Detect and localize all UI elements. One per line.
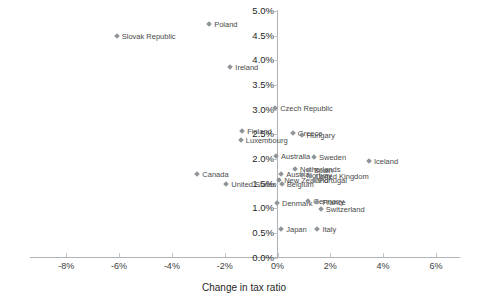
data-point-label: Canada	[202, 171, 228, 179]
y-tick-label: 0.0%	[247, 252, 274, 263]
x-tick-mark	[66, 253, 67, 257]
data-point-marker	[238, 137, 244, 143]
data-point-label: Slovak Republic	[122, 33, 176, 41]
x-tick-label: 2%	[310, 261, 350, 271]
x-tick-mark	[383, 253, 384, 257]
y-tick-label: 4.5%	[247, 30, 274, 41]
y-tick-label: 5.0%	[247, 5, 274, 16]
data-point-label: Poland	[214, 21, 237, 29]
y-tick-label: 3.0%	[247, 104, 274, 115]
data-point: Sweden	[312, 154, 346, 162]
x-tick-label: 0%	[258, 261, 298, 271]
data-point: Luxembourg	[239, 137, 288, 145]
data-point-marker	[318, 206, 324, 212]
data-point-label: Portugal	[319, 177, 347, 185]
data-point-marker	[206, 21, 212, 27]
data-point-label: Italy	[322, 226, 336, 234]
y-tick-mark	[274, 258, 278, 259]
data-point: Belgium	[280, 181, 314, 189]
y-tick-mark	[274, 11, 278, 12]
data-point-marker	[315, 199, 321, 205]
data-point: Hungary	[300, 132, 335, 140]
y-tick-mark	[274, 233, 278, 234]
x-axis-line	[30, 257, 460, 258]
data-point-marker	[114, 33, 120, 39]
x-tick-label: -6%	[99, 261, 139, 271]
x-tick-mark	[172, 253, 173, 257]
data-point-marker	[305, 198, 311, 204]
data-point: Japan	[279, 226, 306, 234]
data-point: Iceland	[367, 158, 398, 166]
y-tick-label: 3.5%	[247, 79, 274, 90]
data-point-label: Ireland	[235, 64, 258, 72]
data-point: Finland	[240, 128, 272, 136]
y-tick-label: 0.5%	[247, 227, 274, 238]
x-tick-label: -2%	[205, 261, 245, 271]
data-point-marker	[227, 64, 233, 70]
data-point: Italy	[315, 226, 336, 234]
data-point-label: Belgium	[287, 181, 314, 189]
x-tick-mark	[119, 253, 120, 257]
data-point-label: Finland	[247, 128, 272, 136]
scatter-chart: -8%-6%-4%-2%0%2%4%6% 0.0%0.5%1.0%1.5%2.0…	[0, 0, 488, 306]
x-tick-mark	[278, 253, 279, 257]
y-tick-label: 2.0%	[247, 153, 274, 164]
data-point-marker	[239, 128, 245, 134]
data-point: Ireland	[228, 64, 258, 72]
y-tick-mark	[274, 60, 278, 61]
data-point-marker	[315, 227, 321, 233]
data-point-label: Switzerland	[326, 206, 365, 214]
data-point-label: Iceland	[374, 158, 398, 166]
data-point: Poland	[207, 21, 237, 29]
data-point-label: Czech Republic	[280, 105, 333, 113]
plot-area: -8%-6%-4%-2%0%2%4%6% 0.0%0.5%1.0%1.5%2.0…	[0, 0, 488, 306]
x-tick-label: 4%	[363, 261, 403, 271]
data-point-marker	[273, 154, 279, 160]
x-tick-mark	[225, 253, 226, 257]
y-tick-mark	[274, 208, 278, 209]
data-point-marker	[223, 181, 229, 187]
data-point: Switzerland	[319, 206, 365, 214]
data-point-label: Sweden	[319, 154, 346, 162]
data-point-label: Luxembourg	[246, 137, 288, 145]
data-point-marker	[299, 132, 305, 138]
data-point: Portugal	[312, 177, 347, 185]
data-point-marker	[290, 130, 296, 136]
y-tick-mark	[274, 36, 278, 37]
data-point-marker	[311, 155, 317, 161]
data-point: Czech Republic	[273, 105, 333, 113]
data-point-marker	[194, 171, 200, 177]
data-point-marker	[366, 159, 372, 165]
x-tick-mark	[436, 253, 437, 257]
data-point-label: United States	[231, 181, 276, 189]
data-point: Australia	[274, 153, 310, 161]
y-tick-mark	[274, 134, 278, 135]
x-tick-label: -8%	[46, 261, 86, 271]
y-tick-label: 1.0%	[247, 202, 274, 213]
data-point-label: Japan	[286, 226, 306, 234]
x-tick-label: 6%	[416, 261, 456, 271]
data-point-marker	[278, 227, 284, 233]
data-point-label: Australia	[281, 153, 310, 161]
data-point-marker	[279, 181, 285, 187]
data-point: Slovak Republic	[115, 33, 176, 41]
data-point: Canada	[195, 171, 228, 179]
data-point-marker	[272, 105, 278, 111]
y-tick-mark	[274, 85, 278, 86]
x-axis-title: Change in tax ratio	[0, 282, 488, 293]
x-tick-label: -4%	[152, 261, 192, 271]
data-point: United States	[224, 181, 276, 189]
data-point-marker	[274, 200, 280, 206]
data-point-label: Hungary	[307, 132, 335, 140]
x-tick-mark	[330, 253, 331, 257]
